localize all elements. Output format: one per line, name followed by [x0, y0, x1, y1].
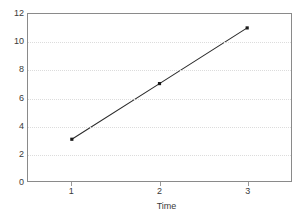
line-chart: 024681012 123 Time: [0, 0, 305, 219]
y-axis: 024681012: [0, 13, 24, 182]
x-axis-tick-label: 2: [157, 186, 162, 196]
x-axis-tick-label: 3: [245, 186, 250, 196]
y-axis-tick-label: 0: [2, 178, 24, 187]
x-axis-tick-mark: [248, 182, 249, 186]
plot-area: [27, 13, 292, 182]
gridline: [28, 99, 291, 101]
y-axis-tick-label: 12: [2, 9, 24, 18]
data-point-marker: [70, 138, 73, 141]
y-axis-tick-label: 6: [2, 94, 24, 103]
gridline: [28, 155, 291, 157]
y-axis-tick-label: 10: [2, 37, 24, 46]
y-axis-tick-label: 8: [2, 65, 24, 74]
gridline: [28, 42, 291, 44]
x-axis-title: Time: [0, 201, 305, 211]
x-axis-tick-label: 1: [69, 186, 74, 196]
gridline: [28, 70, 291, 72]
gridline: [28, 127, 291, 129]
data-point-marker: [158, 82, 161, 85]
data-point-marker: [246, 26, 249, 29]
x-axis: 123: [27, 186, 292, 200]
y-axis-tick-label: 4: [2, 122, 24, 131]
y-axis-tick-label: 2: [2, 150, 24, 159]
x-axis-tick-mark: [71, 182, 72, 186]
x-axis-title-label: Time: [157, 201, 177, 211]
x-axis-tick-mark: [160, 182, 161, 186]
